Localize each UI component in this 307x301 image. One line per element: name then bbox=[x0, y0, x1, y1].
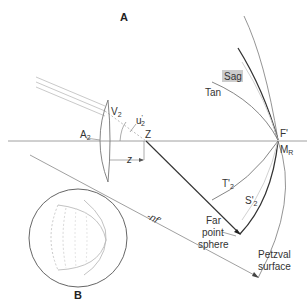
far-point-lower bbox=[240, 141, 278, 234]
tan-label: Tan bbox=[205, 87, 221, 98]
sag-label: Sag bbox=[224, 71, 242, 82]
z-point-label: Z bbox=[145, 129, 151, 140]
panel-b-label: B bbox=[74, 289, 82, 301]
petzval-arrow bbox=[252, 272, 259, 278]
far-point-label-2: point bbox=[202, 227, 224, 238]
nf-label: -nf' bbox=[145, 210, 163, 227]
angle-arc bbox=[120, 122, 126, 141]
optics-diagram: A B V2 u'2 A2 Z z F' MR Sag Tan T'2 S'2 … bbox=[0, 0, 307, 301]
incident-rays bbox=[36, 77, 105, 116]
far-point-upper bbox=[238, 48, 278, 140]
far-point-label-1: Far bbox=[206, 215, 222, 226]
v2-label: V2 bbox=[111, 106, 122, 118]
petzval-label-1: Petzval bbox=[258, 249, 291, 260]
u2-label: u'2 bbox=[136, 114, 145, 127]
z-distance-label: z bbox=[126, 154, 132, 165]
nf-ray bbox=[30, 155, 258, 277]
petzval-label-2: surface bbox=[258, 261, 291, 272]
tan-lower bbox=[212, 141, 278, 200]
far-point-leader bbox=[222, 232, 236, 236]
t2-label: T'2 bbox=[222, 178, 234, 190]
inset-b bbox=[29, 189, 127, 287]
far-point-arrow bbox=[234, 229, 241, 235]
f-prime-label: F' bbox=[280, 128, 288, 139]
sag-upper bbox=[242, 62, 278, 140]
s2-label: S'2 bbox=[245, 195, 258, 207]
mr-label: MR bbox=[280, 144, 293, 156]
far-point-label-3: sphere bbox=[198, 239, 229, 250]
z-arrow bbox=[139, 158, 144, 162]
sag-lower bbox=[242, 141, 278, 220]
a2-label: A2 bbox=[80, 129, 91, 141]
panel-a-label: A bbox=[120, 11, 128, 23]
